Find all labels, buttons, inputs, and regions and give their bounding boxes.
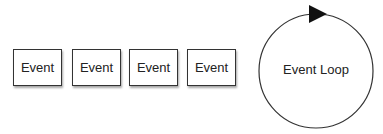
event-loop-label: Event Loop <box>259 62 373 77</box>
clockwise-arrow-icon <box>309 5 327 23</box>
